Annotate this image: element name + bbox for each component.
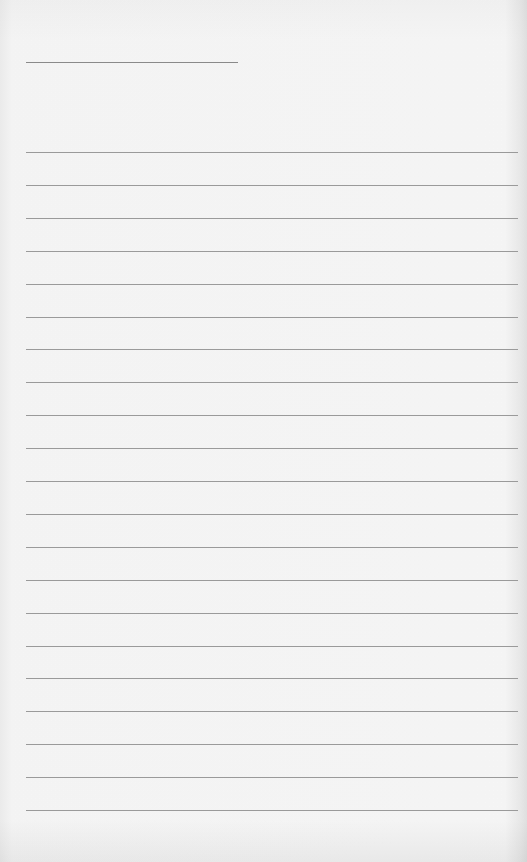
ruled-line (26, 415, 518, 416)
ruled-line (26, 678, 518, 679)
ruled-line (26, 481, 518, 482)
ruled-line (26, 152, 518, 153)
header-name-line (26, 62, 238, 63)
ruled-line (26, 382, 518, 383)
ruled-line (26, 185, 518, 186)
ruled-line (26, 711, 518, 712)
ruled-line (26, 613, 518, 614)
ruled-line (26, 580, 518, 581)
ruled-line (26, 810, 518, 811)
ruled-line (26, 646, 518, 647)
ruled-line (26, 251, 518, 252)
ruled-line (26, 547, 518, 548)
ruled-line (26, 514, 518, 515)
ruled-line (26, 317, 518, 318)
ruled-line (26, 349, 518, 350)
ruled-line (26, 744, 518, 745)
ruled-line (26, 284, 518, 285)
ruled-line (26, 777, 518, 778)
lined-paper-page (0, 0, 527, 862)
ruled-line (26, 448, 518, 449)
ruled-line (26, 218, 518, 219)
